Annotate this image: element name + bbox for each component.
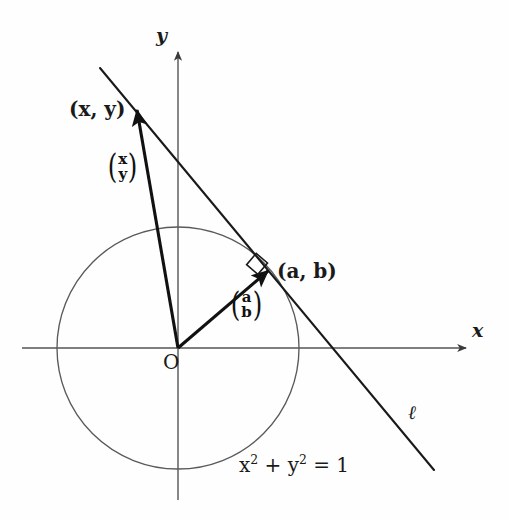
equation-term-y: y (288, 453, 299, 477)
tangent-line-l (100, 68, 434, 470)
equation-exponent-y: 2 (299, 452, 307, 467)
vector-components: x y (118, 152, 127, 183)
y-axis-label: y (156, 26, 167, 45)
vector-components: a b (241, 290, 252, 321)
right-paren: ) (128, 153, 138, 181)
left-paren: ( (108, 153, 118, 181)
point-ab-label: (a, b) (277, 261, 337, 281)
point-xy-label: (x, y) (69, 99, 125, 119)
circle-equation: x2 + y2 = 1 (239, 455, 349, 475)
right-paren: ) (253, 291, 263, 319)
equation-exponent-x: 2 (250, 452, 258, 467)
equation-plus: + (265, 453, 282, 477)
x-axis-label: x (472, 321, 483, 340)
diagram-canvas (0, 0, 509, 519)
vector-xy (137, 110, 178, 348)
equation-term-x: x (239, 453, 250, 477)
left-paren: ( (231, 291, 241, 319)
line-l-label: ℓ (408, 403, 416, 422)
vector-component-bottom: b (241, 305, 252, 320)
equation-equals-one: = 1 (313, 453, 349, 477)
vector-component-bottom: y (118, 167, 127, 182)
column-vector-xy: ( x y ) (106, 152, 139, 183)
origin-label: O (163, 352, 179, 372)
column-vector-ab: ( a b ) (229, 290, 264, 321)
geometry-figure: y x O (x, y) (a, b) ( x y ) ( a b ) ℓ x2… (0, 0, 509, 519)
